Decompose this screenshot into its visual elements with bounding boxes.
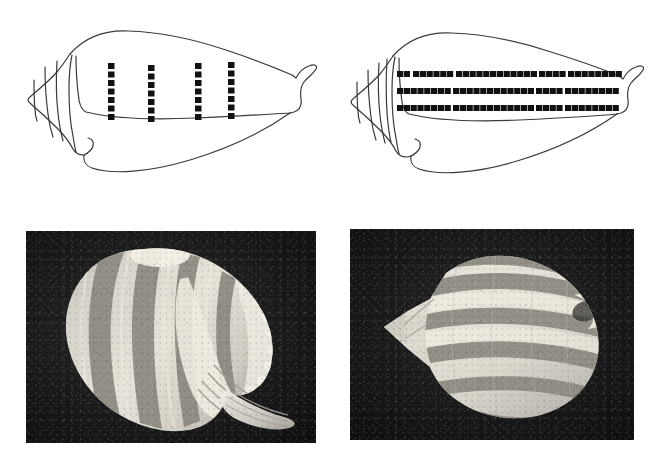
- marking-row: [397, 88, 619, 94]
- shell-drawing-horizontal-pattern: [335, 0, 670, 205]
- shell-photo-apertural-view: [26, 231, 316, 443]
- shell-drawing-vertical-pattern: [0, 0, 335, 205]
- shell-outline-left: [28, 31, 317, 172]
- photo-frame-left: [26, 231, 316, 443]
- marking-column: [108, 63, 115, 120]
- panel-drawing-left: [0, 0, 335, 205]
- shell-outline-right: [351, 33, 644, 173]
- panel-photo-right: [350, 229, 634, 440]
- marking-column: [228, 62, 235, 119]
- panel-photo-left: [26, 231, 316, 443]
- photo-frame-right: [350, 229, 634, 440]
- figure-root: [0, 0, 670, 470]
- panel-drawing-right: [335, 0, 670, 205]
- markings-horizontal-rows: [397, 71, 622, 111]
- marking-column: [195, 63, 202, 120]
- marking-row: [397, 71, 622, 77]
- marking-row: [397, 105, 619, 111]
- markings-vertical-columns: [108, 62, 235, 122]
- shell-photo-dorsal-view: [350, 229, 634, 440]
- marking-column: [148, 65, 155, 122]
